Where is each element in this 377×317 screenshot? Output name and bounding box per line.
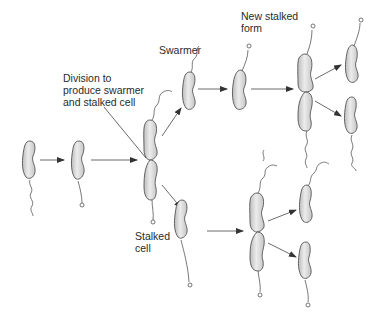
new-stalked-form-label-line-1: New stalked xyxy=(241,10,298,22)
stalked-cell-developing xyxy=(71,141,84,207)
predivisional-cell-2 xyxy=(298,24,315,168)
stalked-daughter-top xyxy=(345,18,363,82)
arrow-to-swarmer xyxy=(162,108,181,136)
stalked-cell-lower xyxy=(174,200,192,287)
swarmer-label-text: Swarmer xyxy=(159,44,201,56)
swarmer-cell-initial xyxy=(22,141,35,216)
predivisional-cell-1 xyxy=(144,91,172,225)
predivisional-cell-3 xyxy=(250,165,277,297)
new-stalked-form-label: New stalked form xyxy=(241,10,298,34)
division-label-line-2: produce swarmer xyxy=(63,84,144,96)
division-leader-line xyxy=(104,107,146,158)
stalked-daughter-bottom xyxy=(298,242,311,307)
stalked-cell-label-line-2: cell xyxy=(135,242,170,254)
arrow-lower-up xyxy=(268,210,296,221)
arrow-lower-down xyxy=(268,243,296,257)
flagellum-fragment xyxy=(263,150,264,161)
arrow-top-right-up xyxy=(315,65,341,79)
stalked-cell-label-line-1: Stalked xyxy=(135,230,170,242)
division-label-line-3: and stalked cell xyxy=(63,96,144,108)
swarmer-label: Swarmer xyxy=(159,44,201,56)
new-stalked-form-cell xyxy=(232,44,251,109)
swarmer-daughter-top xyxy=(344,97,357,171)
new-stalked-form-label-line-2: form xyxy=(241,22,298,34)
division-label-line-1: Division to xyxy=(63,72,144,84)
stalked-cell-label: Stalked cell xyxy=(135,230,170,254)
division-label: Division to produce swarmer and stalked … xyxy=(63,72,144,108)
arrow-top-right-down xyxy=(315,101,341,116)
swarmer-daughter-bottom xyxy=(299,162,329,222)
